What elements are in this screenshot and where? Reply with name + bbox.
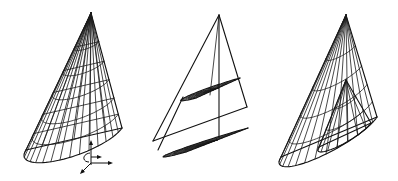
coordinate-axes-icon: [80, 140, 113, 174]
figure: [0, 0, 398, 181]
wireframe-figure: [0, 0, 398, 181]
cone-1-wireframe: [24, 13, 122, 163]
cone-2-wireframe: [153, 15, 248, 157]
cone-3-wireframe: [279, 15, 377, 167]
